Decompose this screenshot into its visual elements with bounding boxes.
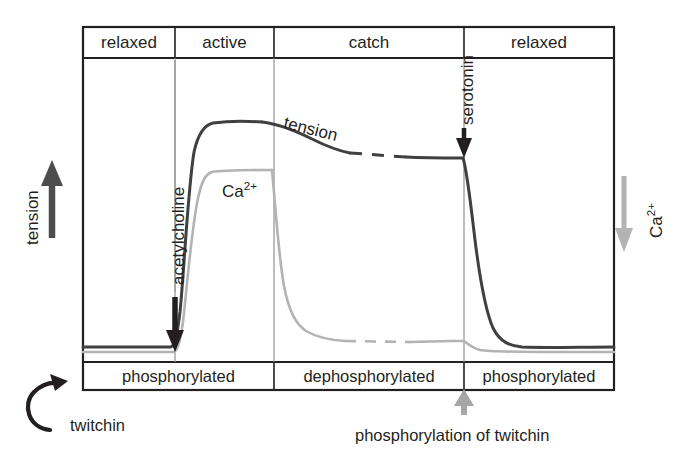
serotonin-arrow — [456, 128, 472, 158]
twitchin-curved-arrow — [28, 374, 68, 430]
tension-axis-arrow — [41, 160, 63, 238]
phase-label-catch: catch — [274, 34, 464, 51]
diagram-canvas — [0, 0, 678, 473]
phosphorylation-caption: phosphorylation of twitchin — [355, 427, 549, 444]
calcium-axis-superscript: 2+ — [645, 203, 657, 216]
y-axis-label-calcium: Ca2+ — [646, 203, 665, 238]
calcium-curve-dashed — [345, 341, 410, 342]
calcium-curve-label: Ca2+ — [222, 181, 257, 200]
calcium-axis-arrow — [615, 176, 633, 252]
calcium-curve-text: Ca — [222, 182, 244, 201]
state-label-dephosphorylated: dephosphorylated — [274, 368, 464, 385]
phosphorylation-arrow — [454, 389, 474, 415]
calcium-curve-decay — [272, 170, 345, 341]
acetylcholine-label: acetylcholine — [170, 187, 187, 285]
tension-curve-dashed — [350, 153, 406, 157]
phase-label-active: active — [175, 34, 274, 51]
phase-label-relaxed-2: relaxed — [464, 34, 614, 51]
catch-muscle-tension-diagram: relaxed active catch relaxed phosphoryla… — [0, 0, 678, 473]
tension-curve-relaxation — [406, 157, 614, 347]
state-label-phosphorylated-2: phosphorylated — [464, 368, 614, 385]
phase-label-relaxed-1: relaxed — [83, 34, 175, 51]
plot-frame — [83, 27, 614, 390]
calcium-axis-text: Ca — [647, 216, 666, 238]
twitchin-label: twitchin — [70, 417, 125, 434]
y-axis-label-tension: tension — [24, 190, 41, 245]
calcium-curve-superscript: 2+ — [244, 180, 257, 192]
state-label-phosphorylated-1: phosphorylated — [83, 368, 274, 385]
serotonin-label: serotonin — [459, 55, 476, 125]
